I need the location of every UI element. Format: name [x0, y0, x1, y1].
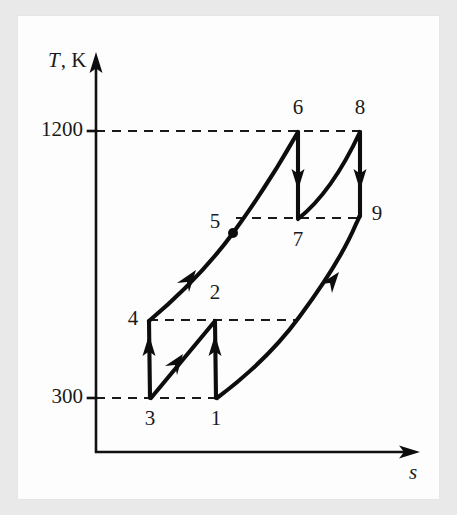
dashed-guides: [96, 131, 362, 398]
y-axis-unit: , K: [61, 48, 87, 72]
state-label-5: 5: [210, 209, 221, 233]
ytick-label-1200: 1200: [41, 117, 83, 141]
y-axis-title: T, K: [48, 48, 86, 72]
state-label-3: 3: [145, 406, 156, 430]
process-1-to-2: [215, 321, 216, 398]
state-label-6: 6: [293, 95, 304, 119]
state-label-4: 4: [128, 306, 139, 330]
axis-lines: [96, 68, 406, 452]
state-dot-5: [228, 228, 238, 238]
tick-labels: 1200 300: [41, 117, 83, 408]
state-label-7: 7: [293, 227, 304, 251]
state-label-2: 2: [210, 280, 221, 304]
process-4-to-6: [149, 132, 298, 321]
process-7-to-8: [298, 132, 360, 219]
process-3-to-2: [151, 321, 215, 398]
x-axis-title: s: [409, 460, 417, 484]
process-1-to-9: [217, 216, 360, 398]
axes-group: [88, 52, 420, 459]
figure-root: 1200 300 T, K s 1 2 3 4 5 6 7 8 9: [0, 0, 457, 515]
state-label-8: 8: [355, 95, 366, 119]
process-3-to-4: [149, 321, 150, 398]
ts-diagram-canvas: 1200 300 T, K s 1 2 3 4 5 6 7 8 9: [0, 0, 457, 515]
state-label-9: 9: [372, 201, 383, 225]
state-markers: [228, 228, 238, 238]
y-axis-symbol: T: [48, 48, 61, 72]
ytick-label-300: 300: [52, 384, 84, 408]
state-label-1: 1: [211, 406, 222, 430]
